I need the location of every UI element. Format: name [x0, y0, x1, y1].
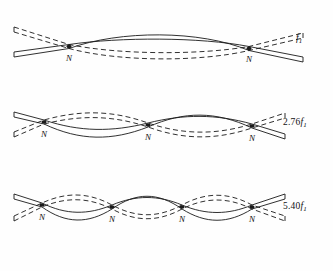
- mode-1-diagram: N N: [0, 0, 333, 90]
- node-label: N: [248, 133, 256, 143]
- mode-row-2: N N N 2.76f1: [0, 85, 333, 175]
- frequency-coefficient: 5.40: [283, 201, 300, 211]
- frequency-label-mode-3: 5.40f1: [283, 201, 307, 213]
- mode-row-1: N N f1: [0, 0, 333, 90]
- node-label: N: [144, 132, 152, 142]
- frequency-label-mode-1: f1: [296, 33, 303, 45]
- frequency-subscript: 1: [299, 37, 303, 45]
- mode-2-diagram: N N N: [0, 85, 333, 175]
- node-label: N: [108, 214, 116, 224]
- frequency-subscript: 1: [303, 121, 307, 129]
- node-label: N: [38, 212, 46, 222]
- node-label: N: [248, 214, 256, 224]
- mode-1-dashed-shape: [14, 27, 303, 59]
- node-label: N: [40, 129, 48, 139]
- frequency-coefficient: 2.76: [283, 117, 300, 127]
- frequency-subscript: 1: [303, 205, 307, 213]
- frequency-label-mode-2: 2.76f1: [283, 117, 307, 129]
- vibration-modes-figure: N N f1: [0, 0, 333, 271]
- mode-3-diagram: N N N N: [0, 170, 333, 270]
- mode-1-nodes: N N: [65, 45, 253, 64]
- node-label: N: [178, 214, 186, 224]
- mode-3-nodes: N N N N: [38, 203, 256, 224]
- mode-2-nodes: N N N: [40, 120, 256, 143]
- node-label: N: [245, 54, 253, 64]
- node-label: N: [65, 53, 73, 63]
- mode-row-3: N N N N 5.40f1: [0, 170, 333, 260]
